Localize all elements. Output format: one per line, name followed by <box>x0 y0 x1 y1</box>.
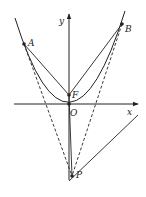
segment-fb <box>69 24 122 95</box>
point-o <box>67 102 71 106</box>
point-p <box>70 174 74 178</box>
label-x: x <box>127 107 132 117</box>
label-f: F <box>71 90 79 100</box>
tangent-pa <box>24 44 72 176</box>
diagram-canvas: y x A B F O P <box>0 0 146 197</box>
label-o: O <box>70 108 78 118</box>
label-b: B <box>124 24 132 34</box>
point-b <box>120 22 124 26</box>
parabola-curve <box>15 11 125 102</box>
label-p: P <box>75 170 83 180</box>
label-a: A <box>27 38 35 48</box>
point-f <box>67 93 71 97</box>
tangent-pb <box>72 24 122 176</box>
point-a <box>22 42 26 46</box>
label-y: y <box>58 16 65 26</box>
segment-af <box>24 44 69 95</box>
